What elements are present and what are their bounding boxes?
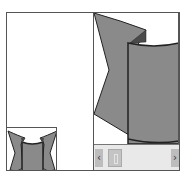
navigator-thumbnail[interactable] [6,127,57,171]
scroll-right-button[interactable]: › [171,149,179,167]
zoomed-image [94,13,179,144]
zoomed-image-view[interactable] [94,13,179,144]
horizontal-scrollbar[interactable]: ‹ › [94,144,179,170]
chevron-left-icon: ‹ [97,152,101,163]
scroll-left-button[interactable]: ‹ [95,149,103,167]
scrollbar-thumb[interactable] [108,149,122,167]
thumbnail-image [7,128,57,171]
chevron-right-icon: › [173,152,177,163]
